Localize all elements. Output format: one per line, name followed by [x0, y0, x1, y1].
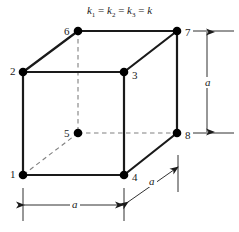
cube-canvas [0, 0, 239, 232]
dimension-line-group [23, 31, 234, 221]
node-1[interactable] [19, 171, 28, 180]
node-group [19, 27, 182, 180]
node-2[interactable] [19, 68, 28, 77]
dimension-label-diagonal: a [147, 176, 157, 187]
node-5[interactable] [74, 129, 83, 138]
edge-3-7 [124, 31, 177, 72]
edge-5-1 [23, 133, 78, 175]
node-8[interactable] [173, 129, 182, 138]
node-4[interactable] [120, 171, 129, 180]
node-6[interactable] [74, 27, 83, 36]
dimension-label-horizontal: a [70, 199, 80, 210]
edge-4-8 [124, 133, 177, 175]
dashed-edge-group [23, 31, 177, 175]
node-3[interactable] [120, 68, 129, 77]
node-label-1: 1 [10, 169, 16, 180]
node-label-7: 7 [185, 27, 191, 38]
cube-spring-diagram: k1 = k2 = k3 = k 12345678 aaa [0, 0, 239, 232]
node-7[interactable] [173, 27, 182, 36]
node-label-4: 4 [132, 172, 138, 183]
edge-2-6 [23, 31, 78, 72]
node-label-2: 2 [10, 66, 16, 77]
node-label-5: 5 [64, 128, 70, 139]
solid-edge-group [23, 31, 177, 175]
dimension-label-vertical: a [203, 77, 213, 88]
node-label-8: 8 [185, 130, 191, 141]
node-label-6: 6 [64, 26, 70, 37]
node-label-3: 3 [132, 70, 138, 81]
